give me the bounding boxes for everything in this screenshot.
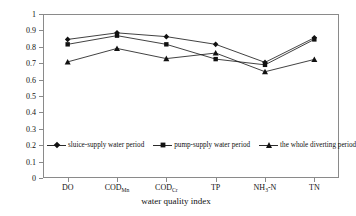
chart-legend: sluice-supply water periodpump-supply wa…	[47, 141, 356, 149]
y-tick-label: 0.2	[8, 141, 36, 150]
legend-item-label: pump-supply water period	[174, 141, 250, 149]
y-tick-label: 0.1	[8, 157, 36, 166]
y-tick-label: 0.8	[8, 42, 36, 51]
legend-item-label: sluice-supply water period	[68, 141, 144, 149]
legend-item[interactable]: the whole diverting period	[259, 141, 356, 149]
legend-item[interactable]: sluice-supply water period	[47, 141, 144, 149]
y-tick-mark	[39, 96, 43, 97]
x-tick-mark	[117, 178, 118, 182]
y-tick-mark	[39, 112, 43, 113]
x-tick-label: CODMn	[105, 183, 130, 192]
y-tick-mark	[39, 162, 43, 163]
y-tick-label: 0.7	[8, 59, 36, 68]
y-tick-mark	[39, 47, 43, 48]
y-tick-label: 1	[8, 10, 36, 19]
y-tick-label: 0.4	[8, 108, 36, 117]
y-tick-label: 0.9	[8, 26, 36, 35]
y-tick-label: 0.6	[8, 75, 36, 84]
y-tick-mark	[39, 14, 43, 15]
legend-item[interactable]: pump-supply water period	[153, 141, 250, 149]
x-tick-label: DO	[62, 183, 74, 192]
legend-item-label: the whole diverting period	[280, 141, 356, 149]
x-tick-mark	[216, 178, 217, 182]
x-tick-mark	[265, 178, 266, 182]
plot-area	[43, 14, 339, 178]
y-tick-mark	[39, 80, 43, 81]
y-tick-mark	[39, 129, 43, 130]
y-tick-mark	[39, 178, 43, 179]
x-tick-label: NH3-N	[254, 183, 277, 192]
x-tick-label: TP	[211, 183, 220, 192]
y-tick-mark	[39, 145, 43, 146]
x-tick-mark	[314, 178, 315, 182]
x-tick-mark	[166, 178, 167, 182]
x-tick-mark	[68, 178, 69, 182]
legend-square-icon	[153, 141, 172, 149]
y-tick-label: 0	[8, 174, 36, 183]
legend-diamond-icon	[47, 141, 66, 149]
x-axis-title: water quality index	[0, 196, 352, 206]
y-tick-label: 0.3	[8, 124, 36, 133]
legend-triangle-icon	[259, 141, 278, 149]
y-tick-mark	[39, 63, 43, 64]
x-tick-label: CODCr	[155, 183, 177, 192]
y-tick-label: 0.5	[8, 92, 36, 101]
y-tick-mark	[39, 30, 43, 31]
x-tick-label: TN	[309, 183, 320, 192]
